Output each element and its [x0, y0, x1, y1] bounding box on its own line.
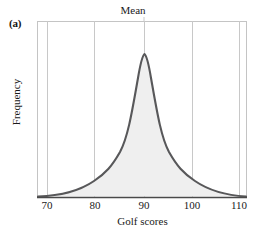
xtick-label-70: 70	[27, 199, 67, 211]
distribution-fill	[38, 54, 246, 197]
xtick-label-80: 80	[75, 199, 115, 211]
xtick-label-100: 100	[172, 199, 212, 211]
figure-panel: (a) Mean Frequency Golf scores 70 80 90	[0, 0, 266, 236]
xtick-label-90: 90	[124, 199, 164, 211]
xtick-label-110: 110	[219, 199, 259, 211]
